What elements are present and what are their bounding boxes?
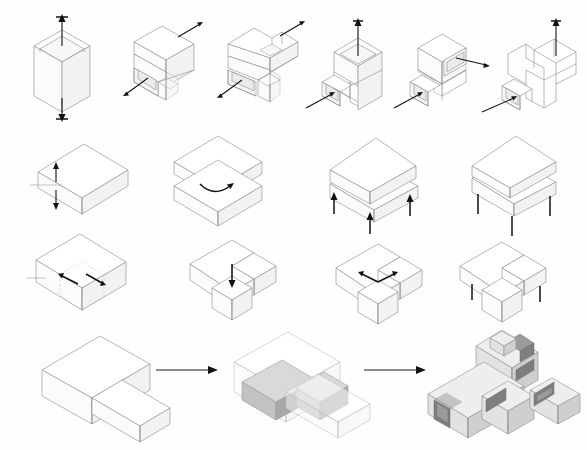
row-1-step-2 [118,12,214,112]
arrow-upper-right-pull [280,21,305,36]
row-4-step-1-wireframe [18,332,178,442]
row-3-step-1 [26,230,150,318]
row-2-step-1 [28,132,140,224]
row-1-step-5 [398,12,502,122]
diagram-sheet [0,0,587,450]
row-1-step-1 [22,12,108,124]
arrow-upper-right-pull [178,22,203,37]
hollow-shaft-geometry [322,38,382,110]
single-slab-geometry [38,144,128,214]
row-2-step-2 [166,132,282,234]
rendered-right-wing [530,378,580,424]
row-3-step-2 [180,230,304,326]
row-2-step-4 [452,132,582,236]
row-3-step-4 [446,230,572,330]
double-notched-volume-geometry [228,28,298,102]
row-1-step-4 [308,12,404,122]
row-4-step-2-ghosted [220,326,392,442]
row-1-step-6 [488,12,587,124]
row-4-step-3-rendered [420,324,586,446]
stepped-volume-geometry [134,26,194,100]
block-geometry [36,234,126,310]
row-2-step-3 [316,132,436,236]
row-3-step-3 [324,230,448,328]
flow-arrow-1 [156,362,222,378]
row-1-step-3 [214,12,312,112]
